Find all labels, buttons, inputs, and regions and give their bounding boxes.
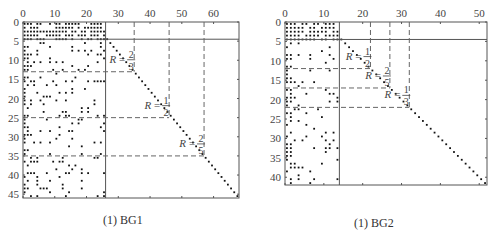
- bg1-y-tick-label: 15: [8, 73, 20, 85]
- bg1-y-tick-label: 20: [8, 93, 20, 105]
- bg2-matrix-dots: [286, 23, 486, 184]
- bg2-caption: (1) BG2: [354, 216, 394, 231]
- bg2-frame: [285, 22, 487, 185]
- svg-text:=: =: [375, 69, 381, 81]
- svg-text:R: R: [384, 88, 392, 100]
- bg2-x-tick-label: 20: [357, 7, 369, 19]
- bg1-y-tick-label: 45: [8, 188, 20, 200]
- svg-text:=: =: [355, 50, 361, 62]
- svg-text:1: 1: [164, 95, 169, 106]
- svg-text:5: 5: [384, 77, 389, 88]
- bg1-y-tick-label: 35: [8, 150, 20, 162]
- bg1-y-tick-label: 30: [8, 131, 20, 143]
- bg2-y-tick-label: 25: [270, 113, 282, 125]
- svg-text:2: 2: [199, 133, 204, 144]
- bg1-y-tick-label: 40: [8, 169, 20, 181]
- bg1-x-tick-label: 30: [113, 7, 125, 19]
- bg2-y-tick-label: 20: [270, 94, 282, 106]
- bg1-y-tick-label: 25: [8, 112, 20, 124]
- svg-text:R: R: [143, 99, 151, 111]
- bg2-x-tick-label: 50: [474, 7, 486, 19]
- svg-text:R: R: [108, 53, 116, 65]
- svg-text:3: 3: [404, 96, 409, 107]
- svg-text:2: 2: [384, 65, 389, 76]
- svg-text:1: 1: [404, 84, 409, 95]
- svg-text:2: 2: [365, 58, 370, 69]
- svg-text:R: R: [364, 69, 372, 81]
- bg1-x-tick-label: 60: [208, 7, 220, 19]
- bg1-x-tick-label: 0: [20, 7, 26, 19]
- bg1-caption: (1) BG1: [103, 213, 143, 228]
- bg2-x-tick-label: 40: [435, 7, 447, 19]
- svg-text:=: =: [119, 53, 125, 65]
- bg2-y-tick-label: 0: [276, 16, 282, 28]
- bg1-x-tick-label: 10: [49, 7, 61, 19]
- svg-text:1: 1: [365, 46, 370, 57]
- bg2-y-tick-label: 15: [270, 74, 282, 86]
- svg-text:=: =: [189, 137, 195, 149]
- bg2-diagram: 010203040500510152025303540 R=12R=25R=13: [250, 0, 499, 241]
- bg2-x-tick-label: 10: [318, 7, 330, 19]
- svg-text:2: 2: [129, 49, 134, 60]
- svg-text:=: =: [394, 88, 400, 100]
- bg2-y-tick-label: 40: [270, 171, 282, 183]
- bg2-x-tick-label: 30: [396, 7, 408, 19]
- bg2-structure-lines: [285, 22, 487, 185]
- bg1-y-tick-label: 5: [14, 35, 20, 47]
- bg2-axis-ticks: 010203040500510152025303540: [270, 7, 487, 185]
- svg-text:5: 5: [199, 145, 204, 156]
- bg1-x-tick-label: 40: [145, 7, 157, 19]
- svg-text:2: 2: [164, 107, 169, 118]
- bg2-y-tick-label: 30: [270, 132, 282, 144]
- svg-text:3: 3: [129, 61, 134, 72]
- bg1-rate-labels: R=23R=12R=25: [108, 49, 205, 156]
- bg2-y-tick-label: 35: [270, 152, 282, 164]
- bg1-x-tick-label: 20: [81, 7, 93, 19]
- bg1-y-tick-label: 10: [8, 54, 20, 66]
- svg-text:=: =: [154, 99, 160, 111]
- bg2-y-tick-label: 5: [276, 35, 282, 47]
- svg-text:R: R: [178, 137, 186, 149]
- bg2-x-tick-label: 0: [282, 7, 288, 19]
- bg1-x-tick-label: 50: [176, 7, 188, 19]
- svg-text:R: R: [345, 50, 353, 62]
- bg2-y-tick-label: 10: [270, 55, 282, 67]
- bg1-diagram: 0102030405060051015202530354045 R=23R=12…: [0, 0, 250, 241]
- bg1-y-tick-label: 0: [14, 16, 20, 28]
